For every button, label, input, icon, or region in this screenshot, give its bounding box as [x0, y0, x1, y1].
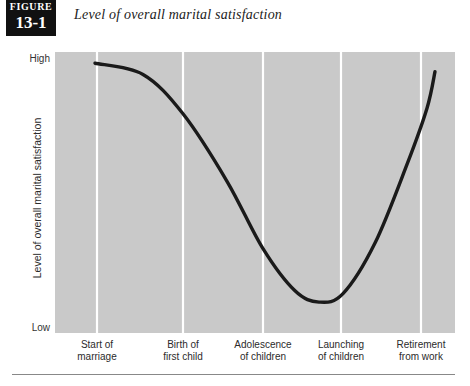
x-axis-label-line2: from work — [375, 351, 467, 363]
x-axis-label-4: Retirementfrom work — [375, 339, 467, 363]
y-axis-tick-low: Low — [10, 322, 50, 333]
gridlines-group — [97, 52, 421, 333]
y-axis-title: Level of overall marital satisfaction — [31, 83, 43, 313]
x-axis-label-3: Launchingof children — [295, 339, 387, 363]
bottom-divider — [12, 374, 455, 375]
chart-plot-area — [55, 52, 455, 333]
x-axis-label-line2: first child — [137, 351, 229, 363]
x-axis-label-line1: Start of — [51, 339, 143, 351]
figure-title: Level of overall marital satisfaction — [74, 7, 282, 23]
marital-satisfaction-line-chart — [55, 52, 455, 333]
figure-badge-word: FIGURE — [10, 1, 53, 13]
x-axis-label-line1: Retirement — [375, 339, 467, 351]
x-axis-label-line1: Birth of — [137, 339, 229, 351]
x-axis-label-0: Start ofmarriage — [51, 339, 143, 363]
x-axis-label-line2: marriage — [51, 351, 143, 363]
x-axis-label-line2: of children — [295, 351, 387, 363]
x-axis-label-1: Birth offirst child — [137, 339, 229, 363]
figure-badge-number: 13-1 — [15, 13, 46, 32]
x-axis-label-line1: Launching — [295, 339, 387, 351]
satisfaction-curve — [95, 63, 435, 302]
figure-badge: FIGURE 13-1 — [6, 0, 56, 36]
y-axis-tick-high: High — [10, 53, 50, 64]
